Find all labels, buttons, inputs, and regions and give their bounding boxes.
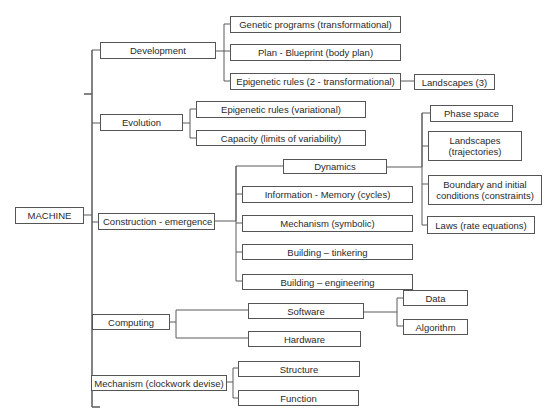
node-function: Function <box>238 390 359 406</box>
node-information-memory: Information - Memory (cycles) <box>242 186 413 203</box>
node-laws-rate-equations: Laws (rate equations) <box>427 216 535 234</box>
node-epigenetic-rules-transformational: Epigenetic rules (2 - transformational) <box>230 73 401 90</box>
node-plan-blueprint: Plan - Blueprint (body plan) <box>230 44 401 61</box>
node-machine: MACHINE <box>15 207 84 224</box>
node-building-engineering: Building – engineering <box>242 274 413 290</box>
node-boundary-conditions: Boundary and initial conditions (constra… <box>428 175 542 205</box>
node-epigenetic-rules-variational: Epigenetic rules (variational) <box>196 101 366 118</box>
node-development: Development <box>100 42 216 59</box>
node-mechanism-clockwork: Mechanism (clockwork devise) <box>91 375 227 391</box>
node-building-tinkering: Building – tinkering <box>242 244 413 260</box>
node-capacity: Capacity (limits of variability) <box>196 130 366 146</box>
node-evolution: Evolution <box>100 114 183 131</box>
node-software: Software <box>248 303 364 319</box>
node-dynamics: Dynamics <box>283 159 387 174</box>
node-genetic-programs: Genetic programs (transformational) <box>230 16 401 33</box>
node-structure: Structure <box>238 361 360 377</box>
node-algorithm: Algorithm <box>403 319 468 335</box>
node-computing: Computing <box>92 314 170 330</box>
node-hardware: Hardware <box>248 331 361 347</box>
node-landscapes-3: Landscapes (3) <box>414 74 495 90</box>
node-phase-space: Phase space <box>430 105 513 122</box>
node-construction-emergence: Construction - emergence <box>98 213 215 230</box>
node-mechanism-symbolic: Mechanism (symbolic) <box>242 215 413 232</box>
node-data: Data <box>403 290 468 306</box>
node-landscapes-trajectories: Landscapes (trajectories) <box>428 131 522 161</box>
